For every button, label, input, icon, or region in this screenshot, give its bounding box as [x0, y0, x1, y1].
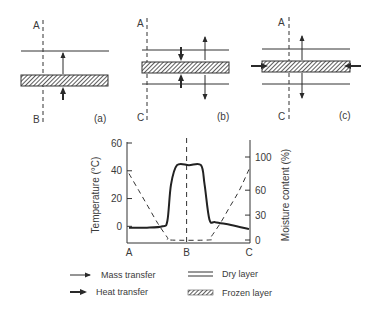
panel-c-frozen-layer — [262, 61, 350, 72]
left-tick-label: 0 — [116, 221, 122, 232]
profile-chart: 0204060 03060100 ABC Temperature (°C) Mo… — [90, 138, 291, 259]
left-tick-label: 40 — [111, 165, 123, 176]
panel-a-label: (a) — [94, 113, 106, 124]
x-tick-label-a: A — [126, 247, 133, 258]
panel-b-label: (b) — [217, 111, 229, 122]
right-tick-label: 0 — [255, 235, 261, 246]
right-tick-label: 60 — [255, 185, 267, 196]
legend-heat-transfer: Heat transfer — [96, 287, 148, 297]
legend-mass-transfer: Mass transfer — [101, 270, 156, 280]
freeze-drying-diagram: A B (a) A C (b) A C (c) — [0, 0, 377, 317]
panel-a-top-letter: A — [33, 20, 40, 31]
x-tick-label-b: B — [183, 247, 190, 258]
panel-b-bottom-letter: C — [137, 112, 144, 123]
left-tick-label: 20 — [111, 193, 123, 204]
panel-c-label: (c) — [339, 110, 351, 121]
left-axis-label: Temperature (°C) — [90, 157, 101, 234]
panel-a-bottom-letter: B — [33, 114, 40, 125]
left-axis-ticks: 0204060 — [111, 138, 132, 232]
x-axis-ticks: ABC — [126, 247, 253, 258]
right-axis-label: Moisture content (%) — [280, 149, 291, 241]
panel-a-frozen-layer — [21, 75, 108, 86]
right-axis-ticks: 03060100 — [245, 152, 272, 246]
x-tick-label-c: C — [245, 247, 252, 258]
panel-a: A B (a) — [21, 20, 109, 125]
panel-c-top-letter: A — [278, 17, 285, 28]
moisture-content-line — [129, 169, 249, 240]
temperature-line — [129, 164, 249, 229]
right-tick-label: 30 — [255, 210, 267, 221]
right-tick-label: 100 — [255, 152, 272, 163]
panel-c-bottom-letter: C — [278, 111, 285, 122]
panel-b: A C (b) — [137, 18, 229, 123]
panel-c: A C (c) — [251, 17, 361, 122]
panel-b-top-letter: A — [137, 18, 144, 29]
legend: Mass transfer Heat transfer Dry layer Fr… — [70, 269, 272, 298]
frozen-layer-icon — [188, 290, 213, 295]
panel-b-frozen-layer — [142, 62, 229, 73]
legend-frozen-layer: Frozen layer — [222, 288, 272, 298]
left-tick-label: 60 — [111, 138, 123, 149]
legend-dry-layer: Dry layer — [222, 269, 258, 279]
